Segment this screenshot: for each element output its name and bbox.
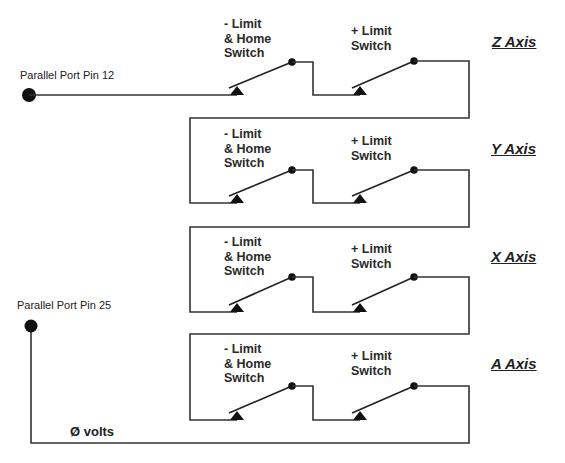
y-axis-label: Y Axis	[491, 140, 536, 157]
x-minus-switch-label: - Limit & Home Switch	[224, 235, 271, 279]
ground-label: Ø volts	[70, 424, 114, 439]
pin25-label: Parallel Port Pin 25	[17, 299, 111, 311]
x-plus-switch-label: + Limit Switch	[351, 242, 392, 271]
z-minus-switch-label: - Limit & Home Switch	[224, 17, 271, 61]
a-axis-label: A Axis	[491, 355, 537, 372]
z-plus-switch-label: + Limit Switch	[351, 24, 392, 53]
y-minus-switch-label: - Limit & Home Switch	[224, 127, 271, 171]
a-plus-switch-label: + Limit Switch	[351, 349, 392, 378]
a-minus-switch-label: - Limit & Home Switch	[224, 342, 271, 386]
x-axis-label: X Axis	[491, 248, 536, 265]
z-axis-label: Z Axis	[492, 33, 536, 50]
pin12-label: Parallel Port Pin 12	[20, 69, 114, 81]
pin25-terminal-icon	[25, 320, 38, 333]
y-plus-switch-label: + Limit Switch	[351, 134, 392, 163]
